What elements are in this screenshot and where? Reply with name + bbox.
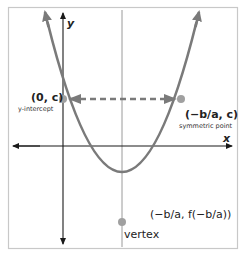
y-intercept-caption: y-intercept [18,106,53,113]
vertex-point [118,218,126,226]
parabola-diagram: y x (0, c) y-intercept (−b/a, c) symmetr… [0,0,243,256]
symmetric-point [177,95,185,103]
vertex-caption: vertex [124,229,159,240]
symmetric-point-caption: symmetric point [179,123,232,130]
y-intercept-coord-label: (0, c) [31,92,63,103]
symmetric-point-coord-label: (−b/a, c) [185,109,238,120]
y-axis-label: y [67,18,74,29]
vertex-coord-label: (−b/a, f(−b/a)) [150,209,231,220]
x-axis-label: x [223,133,230,144]
